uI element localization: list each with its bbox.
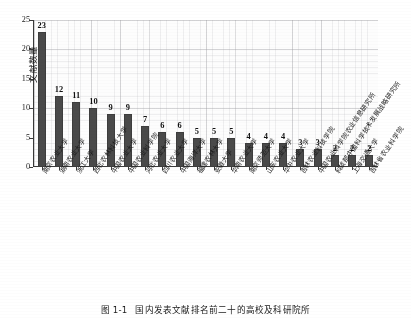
caption-number: 图 1-1 bbox=[101, 305, 128, 315]
y-tick-label: 5 bbox=[8, 133, 30, 142]
y-tick-mark bbox=[29, 79, 33, 80]
y-tick-mark bbox=[29, 167, 33, 168]
figure-container: 文献数量 0510152025 231211109976655544433222… bbox=[0, 0, 411, 318]
y-tick-label: 0 bbox=[8, 162, 30, 171]
bar-value-label: 23 bbox=[32, 21, 52, 30]
y-tick-label: 25 bbox=[8, 15, 30, 24]
bar bbox=[38, 32, 46, 167]
y-tick-mark bbox=[29, 108, 33, 109]
y-tick-label: 20 bbox=[8, 44, 30, 53]
y-tick-mark bbox=[29, 138, 33, 139]
caption-text: 国内发表文献排名前二十的高校及科研院所 bbox=[135, 305, 310, 315]
y-tick-label: 15 bbox=[8, 74, 30, 83]
figure-caption: 图 1-1国内发表文献排名前二十的高校及科研院所 bbox=[0, 303, 411, 318]
y-axis-title: 文献数量 bbox=[26, 29, 38, 99]
y-tick-mark bbox=[29, 49, 33, 50]
bar-value-label: 9 bbox=[118, 103, 138, 112]
y-tick-label: 10 bbox=[8, 103, 30, 112]
